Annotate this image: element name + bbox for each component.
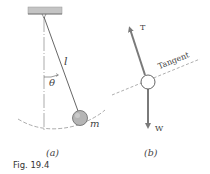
- mass-label: m: [90, 119, 99, 129]
- tension-label: T: [140, 24, 145, 32]
- panel-a-label: (a): [46, 148, 59, 158]
- figure-caption: Fig. 19.4: [13, 160, 49, 170]
- panel-a: [18, 7, 105, 132]
- panel-b: [112, 29, 200, 126]
- free-body-circle: [141, 75, 155, 89]
- pendulum-diagram: [0, 0, 210, 174]
- panel-b-label: (b): [144, 148, 158, 158]
- pendulum-bob: [73, 111, 88, 126]
- pendulum-string: [44, 17, 78, 111]
- tangent-line: [112, 59, 200, 95]
- angle-label: θ: [49, 78, 55, 88]
- weight-label: W: [155, 125, 163, 133]
- tension-arrow: [130, 29, 145, 75]
- length-label: l: [64, 56, 68, 67]
- ceiling-support: [28, 7, 62, 14]
